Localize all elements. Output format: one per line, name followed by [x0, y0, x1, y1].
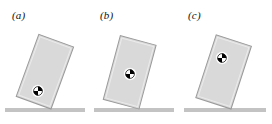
block-a	[16, 34, 73, 109]
center-of-mass-marker-a	[32, 85, 44, 97]
panel-c-svg	[176, 0, 272, 124]
ground-line-b	[94, 108, 174, 112]
panel-c: (c)	[176, 0, 272, 124]
panel-b-svg	[88, 0, 176, 124]
panel-b-scene	[88, 0, 176, 124]
panel-a-scene	[0, 0, 88, 124]
panel-a-svg	[0, 0, 88, 124]
panel-a: (a)	[0, 0, 88, 124]
center-of-mass-marker-c	[216, 52, 228, 64]
ground-line-a	[5, 108, 85, 112]
center-of-mass-marker-b	[124, 68, 136, 80]
physics-figure: (a) (b)	[0, 0, 272, 124]
panel-c-scene	[176, 0, 272, 124]
block-c	[196, 35, 252, 109]
ground-line-c	[184, 108, 266, 112]
panel-b: (b)	[88, 0, 176, 124]
